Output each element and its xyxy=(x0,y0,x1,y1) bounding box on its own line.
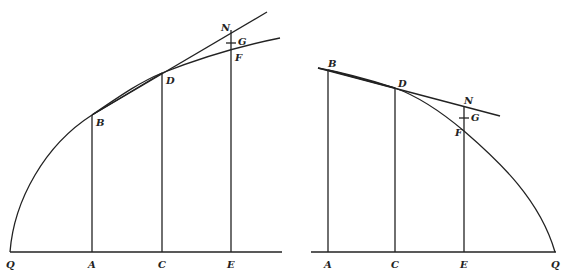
left-label-g: G xyxy=(238,36,247,47)
right-label-d: D xyxy=(397,78,407,89)
right-label-a: A xyxy=(323,259,332,270)
right-label-e: E xyxy=(459,259,468,270)
right-label-f: F xyxy=(454,127,463,138)
left-label-b: B xyxy=(95,117,104,128)
right-chord-bd xyxy=(328,70,395,88)
left-label-q: Q xyxy=(6,259,15,270)
left-label-f: F xyxy=(234,52,243,63)
diagram-canvas: Q A C E B D F G N A C E Q B D N G F xyxy=(0,0,564,274)
left-figure: Q A C E B D F G N xyxy=(6,12,282,270)
left-label-n: N xyxy=(220,22,231,33)
left-curve xyxy=(10,38,280,252)
left-chord-bd xyxy=(92,73,162,115)
right-label-c: C xyxy=(391,259,399,270)
left-label-c: C xyxy=(158,259,166,270)
right-label-b: B xyxy=(327,58,336,69)
right-figure: A C E Q B D N G F xyxy=(311,58,560,270)
right-curve xyxy=(318,68,555,252)
left-label-d: D xyxy=(165,75,175,86)
left-label-a: A xyxy=(87,259,96,270)
left-label-e: E xyxy=(226,259,235,270)
right-label-q: Q xyxy=(551,259,560,270)
right-label-g: G xyxy=(471,112,480,123)
right-label-n: N xyxy=(463,95,474,106)
